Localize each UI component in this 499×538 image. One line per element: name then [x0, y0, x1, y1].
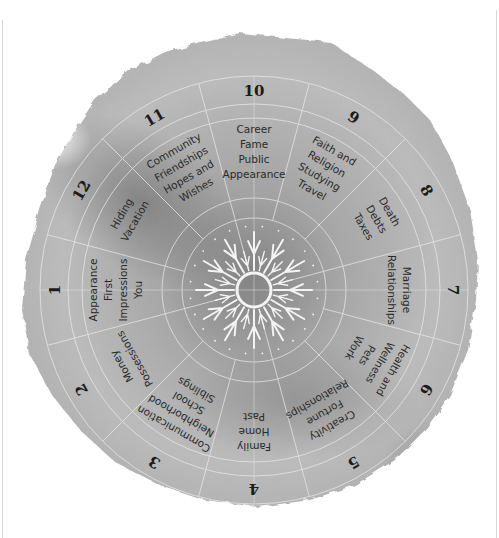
house-keyword: Marriage: [401, 267, 413, 313]
house-number: 10: [244, 82, 265, 100]
house-keyword: Appearance: [87, 258, 99, 321]
house-keyword: Relationships: [386, 255, 398, 325]
house-number: 7: [444, 285, 462, 295]
house-wheel: 1AppearanceFirstImpressionsYou2MoneyPoss…: [0, 0, 499, 538]
house-keyword: Home: [238, 426, 269, 438]
house-keyword: Appearance: [222, 168, 285, 180]
house-keyword: First: [102, 279, 114, 301]
frame-line-right: [496, 10, 497, 538]
house-keyword: Past: [243, 411, 265, 423]
house-number: 1: [46, 285, 64, 295]
diagram-canvas: 1AppearanceFirstImpressionsYou2MoneyPoss…: [0, 0, 499, 538]
house-keyword: Career: [236, 123, 272, 135]
house-number: 4: [249, 480, 259, 498]
house-keyword: Family: [237, 441, 271, 453]
frame-line-left: [2, 20, 3, 538]
house-keyword: Impressions: [117, 259, 129, 322]
house-keyword: You: [132, 281, 144, 300]
house-keyword: Fame: [240, 138, 268, 150]
house-keyword: Public: [238, 153, 269, 165]
